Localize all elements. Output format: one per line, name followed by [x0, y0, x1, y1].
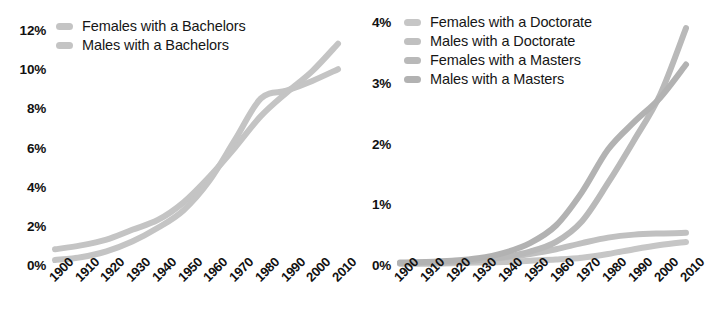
series-line-0	[55, 44, 338, 250]
legend-swatch-icon	[56, 23, 73, 30]
legend-item-label: Females with a Bachelors	[82, 18, 246, 35]
y-tick-label: 1%	[352, 197, 391, 212]
series-line-1	[55, 69, 338, 260]
chart-panel-advanced: 0%1%2%3%4% 19001910192019301940195019601…	[352, 0, 705, 323]
legend-item-label: Females with a Masters	[430, 52, 581, 69]
legend-item[interactable]: Females with a Masters	[404, 52, 592, 69]
legend-item[interactable]: Males with a Doctorate	[404, 33, 592, 50]
y-tick-label: 2%	[0, 218, 46, 233]
legend-swatch-icon	[56, 42, 73, 49]
y-tick-label: 10%	[0, 62, 46, 77]
bachelors-series-lines	[55, 44, 338, 260]
legend-swatch-icon	[404, 76, 421, 83]
legend-swatch-icon	[404, 38, 421, 45]
y-tick-label: 2%	[352, 136, 391, 151]
y-tick-label: 6%	[0, 140, 46, 155]
chart-panel-bachelors: 0%2%4%6%8%10%12% 19001910192019301940195…	[0, 0, 352, 323]
y-tick-label: 8%	[0, 101, 46, 116]
legend-item[interactable]: Females with a Doctorate	[404, 14, 592, 31]
y-tick-label: 0%	[352, 258, 391, 273]
y-tick-label: 4%	[0, 179, 46, 194]
legend-item[interactable]: Males with a Masters	[404, 71, 592, 88]
legend-item-label: Males with a Masters	[430, 71, 564, 88]
legend-item[interactable]: Females with a Bachelors	[56, 18, 246, 35]
legend-item-label: Males with a Doctorate	[430, 33, 575, 50]
advanced-legend: Females with a DoctorateMales with a Doc…	[404, 14, 592, 88]
bachelors-legend: Females with a BachelorsMales with a Bac…	[56, 18, 246, 54]
legend-item-label: Females with a Doctorate	[430, 14, 592, 31]
y-tick-label: 4%	[352, 15, 391, 30]
legend-swatch-icon	[404, 57, 421, 64]
y-tick-label: 0%	[0, 258, 46, 273]
legend-item-label: Males with a Bachelors	[82, 37, 229, 54]
y-tick-label: 12%	[0, 23, 46, 38]
legend-swatch-icon	[404, 19, 421, 26]
y-tick-label: 3%	[352, 75, 391, 90]
legend-item[interactable]: Males with a Bachelors	[56, 37, 246, 54]
figure-container: 0%2%4%6%8%10%12% 19001910192019301940195…	[0, 0, 705, 323]
